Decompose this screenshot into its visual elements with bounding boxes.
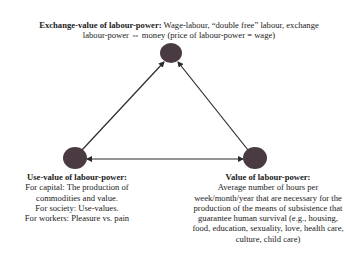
value-line: food, education, sexuality, love, health…	[192, 223, 343, 233]
use-value-title: Use-value of labour-power:	[27, 172, 127, 182]
use-value-label: Use-value of labour-power: For capital: …	[2, 172, 152, 223]
node-use-value	[63, 147, 87, 169]
edge-use-to-exchange	[82, 62, 164, 150]
value-label: Value of labour-power: Average number of…	[182, 172, 354, 244]
exchange-value-label: Exchange-value of labour-power: Wage-lab…	[14, 20, 344, 41]
use-value-line: For society: Use-values.	[35, 203, 118, 213]
exchange-value-text-line2: labour-power ⇔ money (price of labour-po…	[83, 30, 275, 40]
edge-value-to-exchange	[178, 62, 248, 150]
node-value	[243, 147, 267, 169]
value-line: guarantee human survival (e.g., housing,	[198, 213, 338, 223]
use-value-line: For workers: Pleasure vs. pain	[25, 213, 129, 223]
value-line: week/month/year that are necessary for t…	[194, 193, 342, 203]
value-line: culture, child care)	[236, 234, 301, 244]
exchange-value-title: Exchange-value of labour-power:	[39, 20, 161, 30]
value-line: Average number of hours per	[218, 182, 319, 192]
value-line: production of the means of subsistence t…	[194, 203, 343, 213]
value-title: Value of labour-power:	[226, 172, 311, 182]
use-value-line: commodities and value.	[36, 193, 118, 203]
use-value-line: For capital: The production of	[25, 182, 128, 192]
node-exchange-value	[160, 43, 182, 63]
exchange-value-text-line1: Wage-labour, “double free” labour, excha…	[162, 20, 319, 30]
